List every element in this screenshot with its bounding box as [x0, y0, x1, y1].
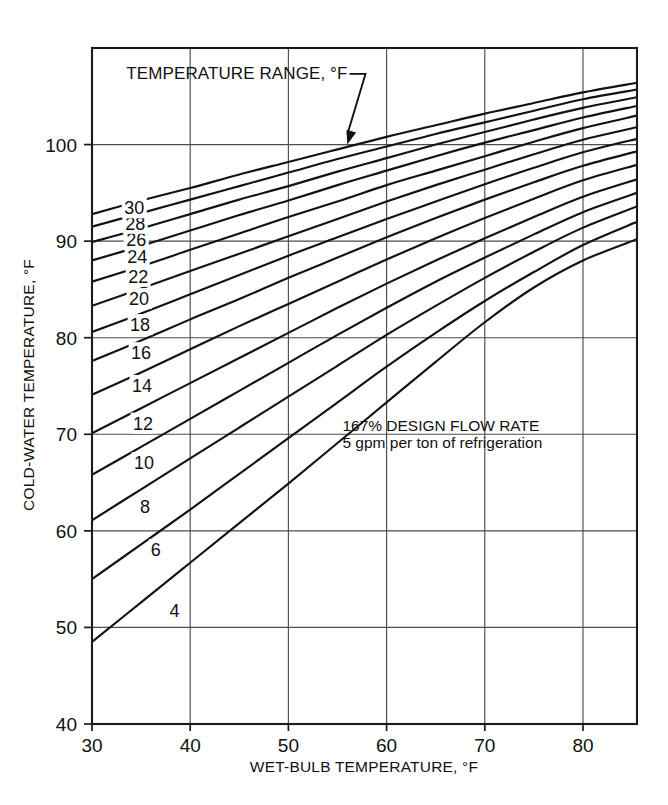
curve-label-10: 10 [134, 453, 154, 473]
curve-label-14: 14 [132, 376, 152, 396]
x-tick-label: 70 [474, 735, 495, 756]
curve-label-4: 4 [169, 601, 179, 621]
y-tick-label: 40 [56, 714, 77, 735]
temperature-range-callout-label: TEMPERATURE RANGE, °F [126, 64, 347, 83]
curve-label-12: 12 [133, 414, 153, 434]
curve-label-30: 30 [124, 198, 144, 218]
curve-label-8: 8 [140, 497, 150, 517]
design-flow-rate-note-line1: 167% DESIGN FLOW RATE [342, 417, 539, 434]
design-flow-rate-note-line2: 5 gpm per ton of refrigeration [342, 434, 542, 451]
y-tick-label: 50 [56, 617, 77, 638]
x-tick-label: 30 [81, 735, 102, 756]
x-axis-title: WET-BULB TEMPERATURE, °F [250, 758, 478, 775]
curve-label-6: 6 [151, 540, 161, 560]
y-tick-label: 80 [56, 328, 77, 349]
y-tick-label: 70 [56, 424, 77, 445]
x-tick-label: 60 [376, 735, 397, 756]
curve-label-18: 18 [130, 315, 150, 335]
design-flow-note: 167% DESIGN FLOW RATE 5 gpm per ton of r… [342, 417, 542, 450]
curve-label-22: 22 [128, 267, 148, 287]
figure-container: 304050607080405060708090100 468101214161… [0, 0, 668, 805]
curve-label-16: 16 [131, 343, 151, 363]
x-tick-label: 50 [278, 735, 299, 756]
y-axis-title: COLD-WATER TEMPERATURE, °F [20, 259, 37, 511]
figure-caption-cropped [0, 789, 668, 805]
x-tick-label: 80 [572, 735, 593, 756]
y-tick-label: 100 [45, 135, 77, 156]
y-tick-label: 60 [56, 521, 77, 542]
x-tick-label: 40 [180, 735, 201, 756]
cooling-tower-performance-chart: 304050607080405060708090100 468101214161… [0, 0, 668, 805]
y-tick-label: 90 [56, 231, 77, 252]
curve-label-20: 20 [129, 289, 149, 309]
